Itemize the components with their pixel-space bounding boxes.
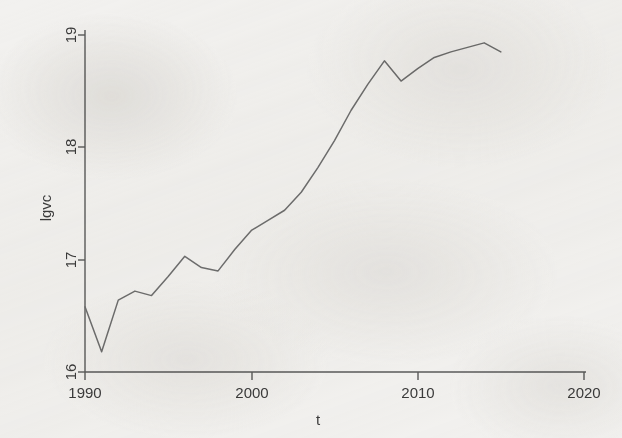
y-tick-group: 19 18 17 16: [62, 27, 86, 381]
x-tick-label-2010: 2010: [401, 384, 434, 401]
x-tick-label-2020: 2020: [567, 384, 600, 401]
y-tick-label-19: 19: [62, 27, 79, 44]
x-tick-group: 1990 2000 2010 2020: [68, 372, 600, 401]
y-tick-label-18: 18: [62, 139, 79, 156]
axes-group: [85, 30, 586, 372]
line-chart: 19 18 17 16 1990 2000 2010 2020 lgvc t: [0, 0, 622, 438]
x-axis-title: t: [316, 411, 321, 428]
y-axis-title: lgvc: [37, 194, 54, 221]
chart-screenshot: 19 18 17 16 1990 2000 2010 2020 lgvc t: [0, 0, 622, 438]
x-tick-label-2000: 2000: [235, 384, 268, 401]
y-tick-label-17: 17: [62, 252, 79, 269]
x-tick-label-1990: 1990: [68, 384, 101, 401]
data-series-lgvc: [85, 43, 501, 352]
y-tick-label-16: 16: [62, 364, 79, 381]
